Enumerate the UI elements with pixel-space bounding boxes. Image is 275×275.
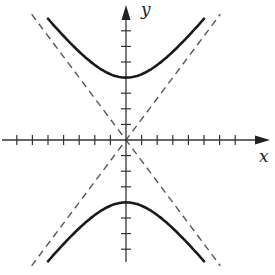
axes	[2, 5, 270, 262]
hyperbola-plot: y x	[0, 0, 275, 275]
y-axis-label: y	[140, 0, 151, 19]
y-axis-arrow-icon	[122, 5, 131, 20]
x-axis-arrow-icon	[255, 136, 270, 145]
x-axis-label: x	[259, 146, 269, 166]
